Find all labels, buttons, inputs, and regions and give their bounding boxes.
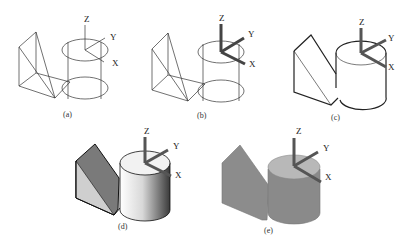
z-label: Z [219,13,225,23]
z-label: Z [84,14,90,24]
y-axis-bar [221,38,244,52]
wedge-flat [222,145,269,220]
caption-c: (c) [331,113,340,122]
z-label: Z [144,126,150,136]
panel-e: Z Y X (e) [222,126,332,235]
z-label: Z [359,17,365,27]
x-label: X [112,58,119,68]
y-label: Y [388,33,395,43]
x-label: X [325,172,332,182]
y-label: Y [110,32,117,42]
wedge-hidden-line [294,35,338,105]
x-label: X [175,170,182,180]
wedge-shaded [76,144,121,215]
z-label: Z [296,126,302,136]
axis-triad-3d [221,24,245,64]
axis-triad-3d [361,28,386,67]
y-label: Y [323,143,330,153]
caption-b: (b) [197,111,207,120]
panel-b: Z Y X (b) [152,13,256,120]
x-label: X [388,62,395,72]
axis-triad [85,25,105,62]
y-label: Y [173,141,180,151]
figure-canvas: Z Y X (a) Z Y X (b) [0,0,406,249]
panel-a: Z Y X (a) [19,14,119,119]
x-axis-bar [221,52,245,64]
wedge-wireframe [152,33,205,101]
caption-d: (d) [118,222,128,231]
y-label: Y [248,29,255,39]
panel-d: Z Y X (d) [76,126,182,231]
x-label: X [249,59,256,69]
caption-a: (a) [63,110,72,119]
caption-e: (e) [264,226,273,235]
panel-c: Z Y X (c) [294,17,395,122]
